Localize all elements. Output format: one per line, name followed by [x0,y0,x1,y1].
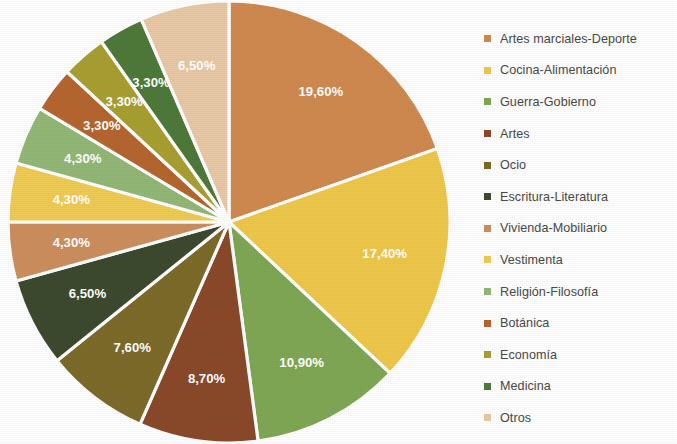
legend-item-label: Economía [500,348,557,362]
legend-swatch-icon [484,162,491,169]
legend-swatch-icon [484,414,491,421]
legend-swatch-icon [484,383,491,390]
legend-item-label: Artes [500,127,530,141]
legend-item-label: Medicina [500,379,551,393]
legend-item-label: Artes marciales-Deporte [500,32,637,46]
pie-slice-label: 19,60% [299,84,344,99]
legend-item[interactable]: Ocio [484,149,677,181]
legend-item-label: Botánica [500,316,549,330]
legend: Artes marciales-DeporteCocina-Alimentaci… [484,23,677,433]
pie-slice-label: 10,90% [279,355,324,370]
legend-swatch-icon [484,256,491,263]
pie-slice-label: 17,40% [362,246,407,261]
legend-item[interactable]: Guerra-Gobierno [484,86,677,118]
legend-swatch-icon [484,98,491,105]
legend-item[interactable]: Botánica [484,307,677,339]
legend-item[interactable]: Religión-Filosofía [484,276,677,308]
pie-plot-area: 19,60%17,40%10,90%8,70%7,60%6,50%4,30%4,… [0,0,470,444]
legend-item[interactable]: Artes marciales-Deporte [484,23,677,55]
legend-swatch-icon [484,67,491,74]
legend-swatch-icon [484,320,491,327]
legend-swatch-icon [484,351,491,358]
pie-chart: 19,60%17,40%10,90%8,70%7,60%6,50%4,30%4,… [0,0,677,444]
legend-item-label: Otros [500,411,531,425]
pie-slice-label: 7,60% [114,340,152,355]
legend-swatch-icon [484,35,491,42]
legend-item[interactable]: Vivienda-Mobiliario [484,213,677,245]
pie-slice-label: 8,70% [188,371,226,386]
pie-slice-label: 3,30% [83,118,121,133]
pie-slice-label: 6,50% [69,286,107,301]
legend-item-label: Ocio [500,158,526,172]
legend-item[interactable]: Artes [484,118,677,150]
legend-swatch-icon [484,225,491,232]
pie-slice-label: 4,30% [64,151,102,166]
legend-item-label: Escritura-Literatura [500,190,608,204]
pie-svg: 19,60%17,40%10,90%8,70%7,60%6,50%4,30%4,… [0,0,470,444]
legend-item[interactable]: Escritura-Literatura [484,181,677,213]
legend-swatch-icon [484,193,491,200]
legend-item[interactable]: Cocina-Alimentación [484,55,677,87]
pie-slice-label: 3,30% [105,94,143,109]
legend-item[interactable]: Economía [484,339,677,371]
legend-item-label: Cocina-Alimentación [500,63,616,77]
legend-item-label: Vestimenta [500,253,563,267]
legend-item-label: Vivienda-Mobiliario [500,221,607,235]
pie-slice-label: 3,30% [132,75,170,90]
legend-item[interactable]: Vestimenta [484,244,677,276]
legend-swatch-icon [484,130,491,137]
legend-item-label: Guerra-Gobierno [500,95,596,109]
pie-slice-label: 6,50% [178,58,216,73]
legend-item[interactable]: Otros [484,402,677,434]
pie-slice-label: 4,30% [53,235,91,250]
pie-slice-label: 4,30% [53,192,91,207]
legend-swatch-icon [484,288,491,295]
legend-item[interactable]: Medicina [484,371,677,403]
legend-item-label: Religión-Filosofía [500,285,598,299]
pie-slices [8,1,450,443]
